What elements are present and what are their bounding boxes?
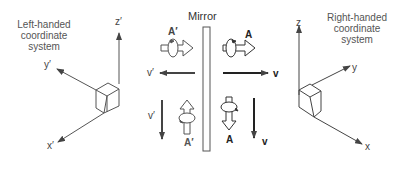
left-cube (96, 83, 119, 113)
y-prime-axis (57, 69, 96, 90)
right-top-velocity-label: v (273, 68, 279, 79)
y-prime-label: y′ (44, 59, 51, 70)
y-axis (312, 66, 350, 85)
left-system-title: Left-handed coordinate system (14, 19, 74, 52)
left-bottom-velocity-label: v′ (148, 110, 155, 121)
x-prime-label: x′ (47, 140, 54, 151)
right-title-line2: coordinate (322, 23, 392, 34)
left-bottom-axial-label: A′ (184, 137, 194, 148)
right-bottom-velocity-label: v (262, 136, 268, 147)
mirror (203, 27, 210, 151)
right-top-axial-vector (223, 39, 255, 57)
z-label: z (296, 17, 301, 28)
right-title-line1: Right-handed (322, 12, 392, 23)
left-top-axial-label: A′ (168, 26, 178, 37)
right-bottom-axial-label: A (226, 134, 233, 145)
left-top-velocity-label: v′ (147, 67, 154, 78)
right-bottom-axial-vector (221, 97, 238, 130)
left-title-line3: system (14, 41, 74, 52)
x-label: x (365, 141, 370, 152)
left-title-line2: coordinate (14, 30, 74, 41)
mirror-label: Mirror (188, 11, 217, 22)
y-label: y (352, 62, 357, 73)
right-system-title: Right-handed coordinate system (322, 12, 392, 45)
left-top-axial-vector (161, 39, 193, 57)
mirror-reflection-diagram: Left-handed coordinate system Right-hand… (0, 0, 400, 173)
left-bottom-axial-vector (179, 100, 195, 134)
right-cube (299, 84, 321, 117)
x-axis (314, 117, 362, 144)
left-title-line1: Left-handed (14, 19, 74, 30)
x-prime-axis (58, 113, 104, 142)
right-title-line3: system (322, 34, 392, 45)
right-top-axial-label: A (245, 29, 252, 40)
z-prime-label: z′ (115, 16, 122, 27)
